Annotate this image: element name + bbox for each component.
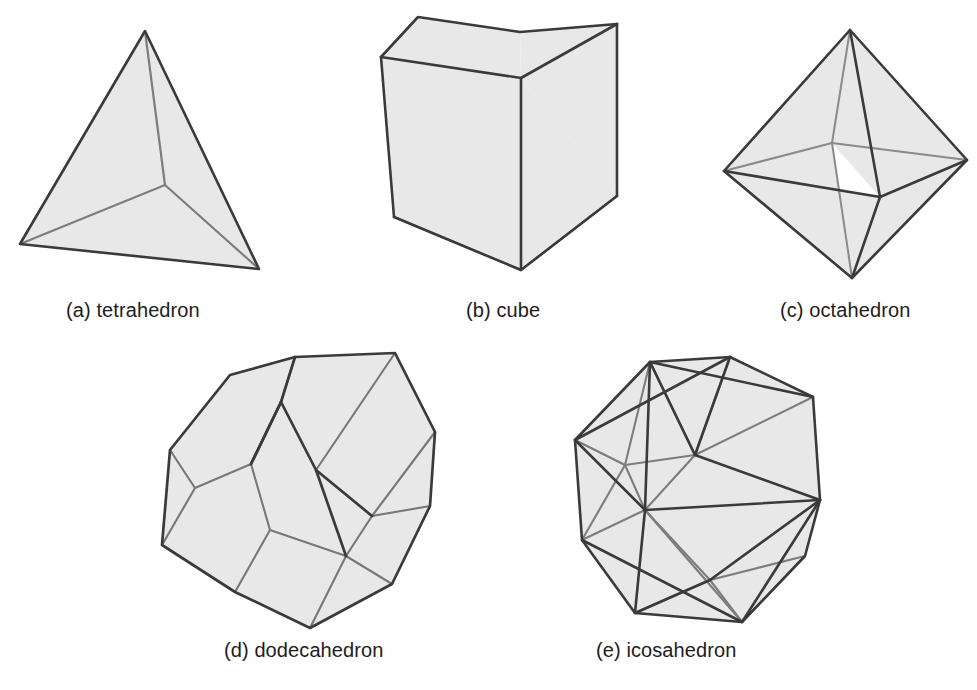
platonic-solids-figure: (a) tetrahedron (b) cube (c) octahedron … — [0, 0, 977, 690]
icosahedron-drawing — [520, 340, 850, 640]
caption-icosahedron: (e) icosahedron — [596, 639, 736, 662]
octahedron-drawing — [690, 0, 977, 290]
tetrahedron-faces — [20, 31, 259, 269]
cube-face-front-left — [381, 57, 521, 270]
dodecahedron-drawing — [140, 340, 470, 640]
tetrahedron-drawing — [0, 0, 300, 290]
caption-cube: (b) cube — [466, 299, 540, 322]
dodecahedron-body — [162, 353, 435, 628]
caption-tetrahedron: (a) tetrahedron — [66, 299, 200, 322]
caption-octahedron: (c) octahedron — [780, 299, 910, 322]
cube-faces — [381, 17, 617, 270]
caption-dodecahedron: (d) dodecahedron — [224, 639, 384, 662]
cube-drawing — [360, 0, 660, 290]
